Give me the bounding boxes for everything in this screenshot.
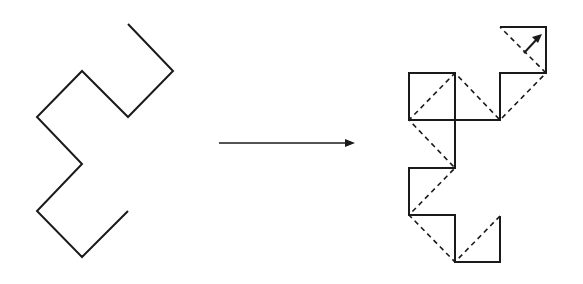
previous-iteration-dashed-path	[409, 27, 546, 262]
new-iteration-solid-path	[409, 27, 546, 262]
next-iteration-figure	[409, 27, 546, 262]
original-path-figure	[37, 24, 173, 257]
direction-arrow-shaft	[524, 39, 537, 53]
dragon-curve-diagram	[0, 0, 583, 284]
original-zigzag-path	[37, 24, 173, 257]
arrow-head-icon	[345, 139, 355, 147]
transform-arrow	[219, 139, 355, 147]
